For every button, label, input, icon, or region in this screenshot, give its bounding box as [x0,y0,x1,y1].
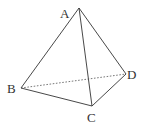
vertex-label-b: B [7,81,16,96]
tetrahedron-diagram: A B C D [0,0,145,127]
edge-ac [79,8,92,106]
edge-cd [92,74,126,106]
edge-bc [21,88,92,106]
vertex-label-d: D [127,67,136,82]
edge-ab [21,8,79,88]
vertex-label-a: A [60,6,70,21]
edge-bd-hidden [21,74,126,88]
vertex-label-c: C [87,110,96,125]
